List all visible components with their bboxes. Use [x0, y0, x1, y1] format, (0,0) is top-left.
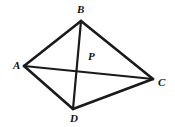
vertex-label-p: P	[88, 51, 95, 62]
segment-ac	[24, 66, 153, 79]
vertex-label-d: D	[70, 113, 78, 124]
figure-canvas	[0, 0, 175, 127]
segment-da	[24, 66, 73, 109]
segment-cd	[73, 79, 153, 109]
vertex-label-a: A	[13, 60, 20, 71]
vertex-label-c: C	[158, 77, 165, 88]
geometry-figure: A B C D P	[0, 0, 175, 127]
segment-ab	[24, 21, 81, 66]
vertex-label-b: B	[77, 4, 84, 15]
segment-bd	[73, 21, 81, 109]
